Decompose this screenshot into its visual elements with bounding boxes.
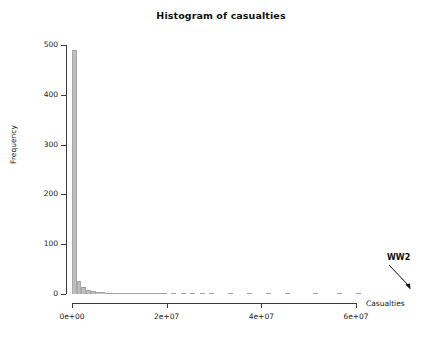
y-axis-tick-mark — [61, 244, 66, 245]
x-axis-tick-mark — [167, 303, 168, 308]
histogram-bar — [285, 293, 290, 294]
histogram-figure: Histogram of casualties 5004003002001000… — [0, 0, 442, 344]
x-axis-title: Casualties — [366, 299, 405, 308]
histogram-bar — [266, 293, 271, 294]
histogram-bar — [72, 50, 77, 294]
x-axis-line — [72, 303, 356, 304]
y-axis-tick-mark — [61, 145, 66, 146]
ww2-annotation-label: WW2 — [387, 253, 410, 262]
y-axis-tick-label: 300 — [30, 140, 58, 149]
y-axis-tick-mark — [61, 294, 66, 295]
x-axis-tick-label: 0e+00 — [59, 312, 84, 321]
histogram-bar — [190, 293, 195, 294]
ww2-annotation-arrow-icon — [382, 262, 418, 294]
y-axis-tick-label: 100 — [30, 239, 58, 248]
y-axis-tick-mark — [61, 45, 66, 46]
y-axis-tick-label: 200 — [30, 189, 58, 198]
chart-title: Histogram of casualties — [0, 10, 442, 21]
histogram-bar — [247, 293, 252, 294]
y-axis-tick-mark — [61, 194, 66, 195]
histogram-bar — [337, 293, 342, 294]
x-axis-tick-mark — [72, 303, 73, 308]
y-axis-tick-label: 500 — [30, 40, 58, 49]
histogram-bar — [356, 293, 361, 294]
x-axis-tick-label: 4e+07 — [249, 312, 274, 321]
x-axis-tick-label: 6e+07 — [343, 312, 368, 321]
y-axis-line — [66, 45, 67, 294]
y-axis-title: Frequency — [9, 125, 18, 164]
histogram-bar — [181, 293, 186, 294]
x-axis-tick-mark — [356, 303, 357, 308]
histogram-bar — [209, 293, 214, 294]
y-axis-tick-mark — [61, 95, 66, 96]
histogram-bar — [313, 293, 318, 294]
histogram-bar — [171, 293, 176, 294]
y-axis-tick-label: 0 — [30, 289, 58, 298]
histogram-bar — [228, 293, 233, 294]
plot-area — [67, 45, 356, 294]
histogram-bar — [162, 293, 167, 294]
y-axis-tick-label: 400 — [30, 90, 58, 99]
histogram-bar — [200, 293, 205, 294]
x-axis-tick-label: 2e+07 — [154, 312, 179, 321]
x-axis-tick-mark — [261, 303, 262, 308]
